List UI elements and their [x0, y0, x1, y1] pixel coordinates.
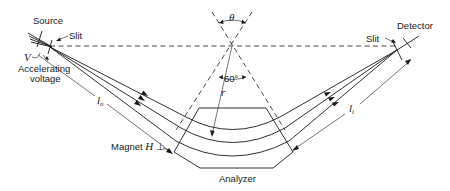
accelerating-voltage-label-line2: voltage [30, 73, 61, 84]
analyzer-label: Analyzer [219, 173, 256, 184]
detector-assembly [392, 36, 419, 60]
analyzer-magnet-outline [174, 108, 293, 168]
source-label: Source [33, 15, 63, 26]
radius-label: r [221, 86, 226, 98]
sixty-degree-label: 60° [224, 73, 239, 84]
voltage-symbol: V [24, 51, 32, 63]
source-assembly [28, 31, 52, 54]
mass-spectrometer-diagram: θ 60° r lo [0, 0, 450, 191]
right-slit-label: Slit [366, 33, 380, 44]
right-slit-pointer [385, 38, 396, 43]
object-distance-label: lo [97, 94, 104, 108]
left-slit-pointer [56, 36, 68, 41]
magnet-label: Magnet H ⊥ [111, 140, 165, 152]
theta-label: θ [229, 11, 235, 23]
left-slit-label: Slit [69, 30, 83, 41]
detector-label: Detector [397, 20, 433, 31]
image-distance-label: li [349, 102, 354, 116]
